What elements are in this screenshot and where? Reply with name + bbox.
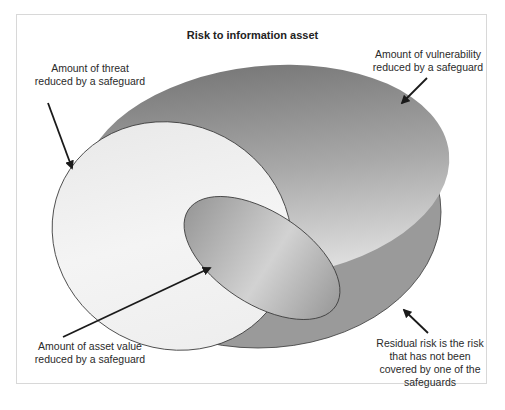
threat-label-line1: Amount of threat [30,62,150,75]
threat-label-line2: reduced by a safeguard [30,75,150,88]
vulnerability-label: Amount of vulnerability reduced by a saf… [372,48,484,74]
residual-label-line2: that has not been [374,350,486,363]
residual-label-line4: safeguards [374,376,486,389]
asset-value-label-line2: reduced by a safeguard [30,353,150,366]
vulnerability-label-line1: Amount of vulnerability [372,48,484,61]
vulnerability-label-line2: reduced by a safeguard [372,61,484,74]
threat-arrow [48,103,72,168]
residual-label-line1: Residual risk is the risk [374,337,486,350]
threat-label: Amount of threat reduced by a safeguard [30,62,150,88]
residual-arrow [404,310,428,333]
asset-value-label-line1: Amount of asset value [30,340,150,353]
residual-label-line3: covered by one of the [374,363,486,376]
asset-value-label: Amount of asset value reduced by a safeg… [30,340,150,366]
residual-label: Residual risk is the risk that has not b… [374,337,486,389]
